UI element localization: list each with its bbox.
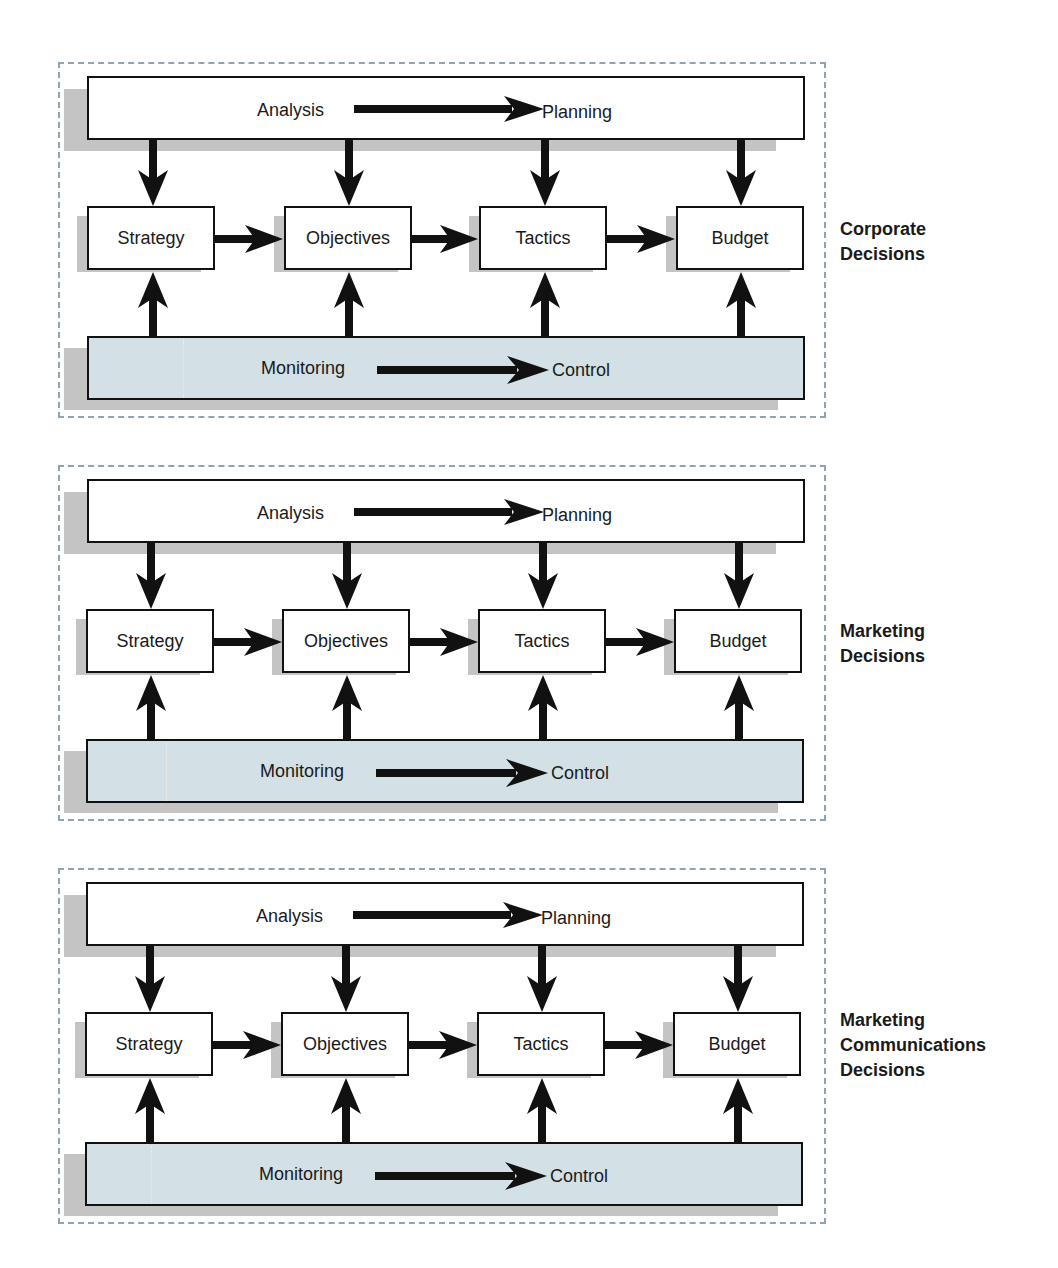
arrow-up-icon [138,272,168,338]
arrow-right-icon [214,628,282,656]
label-line: Marketing [840,619,925,644]
planning-label: Planning [542,505,612,526]
arrow-down-icon [334,140,364,206]
arrow-up-icon [331,1078,361,1144]
arrow-down-icon [726,140,756,206]
arrow-right-icon [409,1031,477,1059]
faint-divider [151,1146,152,1204]
analysis-label: Analysis [256,906,323,927]
objectives-box: Objectives [281,1012,409,1076]
arrow-down-icon [136,543,166,609]
arrow-right-icon [353,902,543,928]
strategy-box: Strategy [85,1012,213,1076]
arrow-down-icon [723,946,753,1012]
side-label-marketing-decisions: Marketing Decisions [840,619,925,669]
label-line: Marketing [840,1008,986,1033]
arrow-right-icon [606,628,674,656]
control-label: Control [552,360,610,381]
analysis-planning-bar: Analysis Planning [87,76,805,140]
side-label-marketing-communications-decisions: Marketing Communications Decisions [840,1008,986,1083]
monitoring-control-bar: Monitoring Control [86,739,804,803]
arrow-down-icon [138,140,168,206]
arrow-right-icon [412,225,478,253]
arrow-up-icon [332,675,362,741]
faint-divider [166,743,167,801]
strategy-box: Strategy [87,206,215,270]
budget-box: Budget [673,1012,801,1076]
planning-label: Planning [542,102,612,123]
label-line: Corporate [840,217,926,242]
arrow-right-icon [376,759,548,787]
arrow-up-icon [334,272,364,338]
arrow-up-icon [135,1078,165,1144]
panel-marketing-communications-decisions: Analysis Planning Strategy Objectives Ta… [58,868,826,1224]
tactics-box: Tactics [478,609,606,673]
analysis-planning-bar: Analysis Planning [87,479,805,543]
arrow-down-icon [724,543,754,609]
arrow-right-icon [354,499,544,525]
arrow-right-icon [605,1031,673,1059]
tactics-box: Tactics [479,206,607,270]
arrow-down-icon [332,543,362,609]
label-line: Decisions [840,644,925,669]
control-label: Control [551,763,609,784]
arrow-up-icon [726,272,756,338]
arrow-up-icon [528,675,558,741]
analysis-planning-bar: Analysis Planning [86,882,804,946]
label-line: Communications [840,1033,986,1058]
tactics-box: Tactics [477,1012,605,1076]
label-line: Decisions [840,1058,986,1083]
objectives-box: Objectives [282,609,410,673]
planning-label: Planning [541,908,611,929]
panel-corporate-decisions: Analysis Planning Strategy Objectives Ta… [58,62,826,418]
objectives-box: Objectives [284,206,412,270]
label-line: Decisions [840,242,926,267]
arrow-right-icon [377,356,549,384]
panel-marketing-decisions: Analysis Planning Strategy Objectives Ta… [58,465,826,821]
monitoring-label: Monitoring [259,1164,343,1185]
arrow-down-icon [528,543,558,609]
arrow-right-icon [354,96,544,122]
arrow-down-icon [527,946,557,1012]
monitoring-label: Monitoring [261,358,345,379]
arrow-right-icon [410,628,478,656]
monitoring-label: Monitoring [260,761,344,782]
control-label: Control [550,1166,608,1187]
arrow-right-icon [215,225,283,253]
budget-box: Budget [674,609,802,673]
arrow-up-icon [724,675,754,741]
arrow-down-icon [135,946,165,1012]
budget-box: Budget [676,206,804,270]
arrow-right-icon [607,225,675,253]
arrow-down-icon [331,946,361,1012]
side-label-corporate-decisions: Corporate Decisions [840,217,926,267]
analysis-label: Analysis [257,100,324,121]
analysis-label: Analysis [257,503,324,524]
arrow-up-icon [527,1078,557,1144]
arrow-right-icon [375,1162,547,1190]
arrow-up-icon [136,675,166,741]
arrow-right-icon [213,1031,281,1059]
arrow-up-icon [723,1078,753,1144]
arrow-up-icon [530,272,560,338]
monitoring-control-bar: Monitoring Control [85,1142,803,1206]
faint-divider [183,340,184,398]
strategy-box: Strategy [86,609,214,673]
monitoring-control-bar: Monitoring Control [87,336,805,400]
arrow-down-icon [530,140,560,206]
